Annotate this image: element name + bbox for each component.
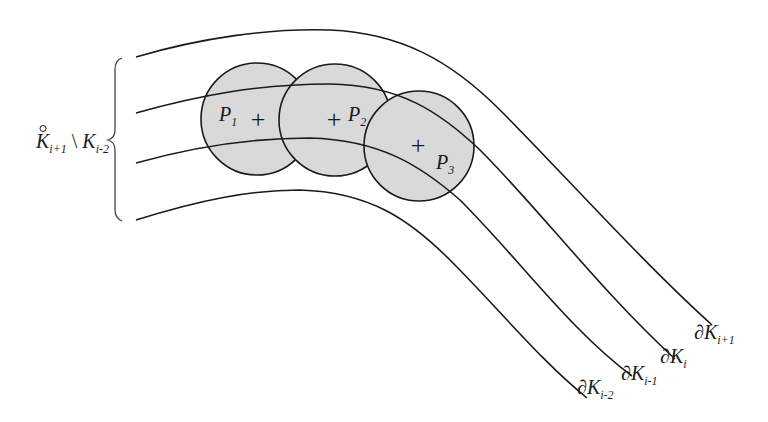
nested-sets-diagram	[0, 0, 768, 422]
boundary-k-i-minus-1-label: ∂Ki-1	[621, 363, 658, 387]
disk-p1-center-mark: +	[251, 107, 266, 133]
boundary-k-i-label: ∂Ki	[660, 346, 687, 370]
curve-boundary-k-i-minus-2	[136, 190, 587, 398]
brace	[108, 58, 122, 221]
brace-label: Ki+1 \ Ki-2	[36, 131, 109, 155]
disk-p1-label: P1	[219, 104, 237, 128]
boundary-k-i-plus-1-label: ∂Ki+1	[694, 322, 735, 346]
disk-p2-label: P2	[348, 104, 366, 128]
disk-p3-center-mark: +	[411, 133, 426, 159]
interior-ring-icon: K	[36, 131, 49, 151]
disk-p3-label: P3	[436, 152, 454, 176]
disk-p2-center-mark: +	[327, 107, 342, 133]
boundary-k-i-minus-2-label: ∂Ki-2	[577, 377, 614, 401]
